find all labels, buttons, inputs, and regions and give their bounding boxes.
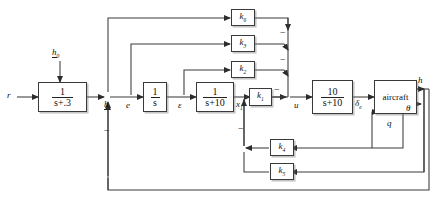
label-delta-e: δe [355, 99, 362, 110]
wire-q-into-aircraft [372, 112, 378, 148]
label-h-error: h [104, 100, 109, 109]
label-h-output: h [418, 76, 423, 85]
block-diagram-canvas: 1 s+.3 1 s 1 s+10 10 s+10 aircraft k6 k3… [0, 0, 434, 206]
sign-sum2-minus-a: − [280, 28, 286, 38]
k1-subscript: 1 [261, 96, 264, 102]
block-actuator: 10 s+10 [312, 80, 353, 114]
prefilter-denominator: s+.3 [52, 97, 73, 108]
label-theta: θ [406, 104, 410, 113]
gain-block-k2: k2 [231, 61, 255, 78]
integrator-denominator: s [151, 97, 160, 108]
sign-sum2-minus-b: − [280, 55, 286, 65]
block-integrator: 1 s [143, 82, 167, 112]
label-x1: x1 [236, 100, 243, 111]
wire-k3-to-sum2 [255, 44, 288, 50]
label-e: e [126, 101, 130, 110]
k2-subscript: 2 [244, 69, 247, 75]
sign-sum3-minus: − [238, 124, 244, 134]
lag10-denominator: s+10 [203, 97, 227, 108]
k6-subscript: 6 [244, 17, 247, 23]
actuator-denominator: s+10 [321, 97, 345, 108]
gain-block-k3: k3 [231, 35, 255, 52]
wire-k2-to-sum2 [255, 70, 288, 76]
label-q: q [387, 119, 392, 128]
gain-block-k5: k5 [270, 163, 294, 180]
gain-block-k1: k1 [249, 88, 272, 106]
k5-subscript: 5 [283, 171, 286, 177]
label-r: r [7, 91, 11, 100]
label-epsilon: ε [178, 101, 182, 110]
label-u: u [294, 101, 299, 110]
k4-subscript: 4 [283, 147, 286, 153]
k3-subscript: 3 [244, 43, 247, 49]
block-lag-s-plus-10: 1 s+10 [196, 82, 234, 112]
lag10-numerator: 1 [203, 87, 227, 97]
integrator-numerator: 1 [151, 87, 160, 97]
wire-h-tap-to-k6 [108, 18, 230, 92]
sign-sum1-minus: − [104, 126, 110, 136]
gain-block-k4: k4 [270, 139, 294, 156]
block-aircraft: aircraft [374, 80, 417, 114]
label-h0: h0 [52, 48, 59, 59]
wire-k5-to-sum3 [244, 152, 269, 172]
prefilter-numerator: 1 [52, 87, 73, 97]
sign-sum2-minus-c: − [274, 85, 280, 95]
block-prefilter: 1 s+.3 [38, 82, 87, 112]
gain-block-k6: k6 [231, 9, 255, 26]
actuator-numerator: 10 [321, 87, 345, 97]
aircraft-label: aircraft [383, 93, 409, 102]
